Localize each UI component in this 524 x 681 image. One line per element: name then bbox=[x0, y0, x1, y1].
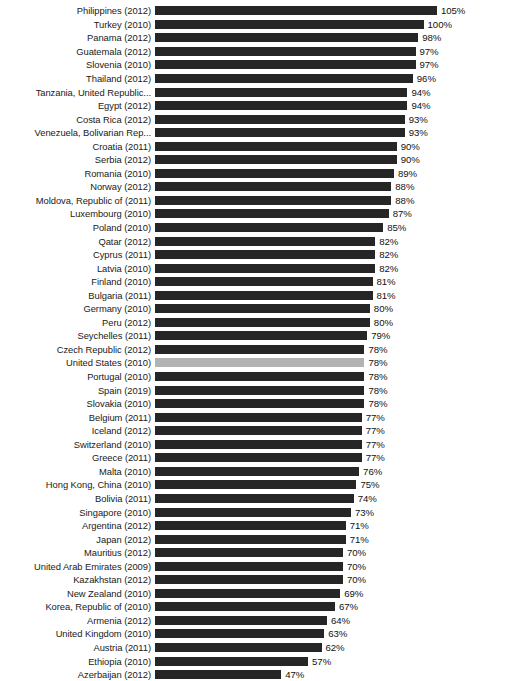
bar-row: Costa Rica (2012)93% bbox=[0, 112, 524, 126]
bar-track: 98% bbox=[155, 31, 524, 45]
bar-track: 105% bbox=[155, 4, 524, 18]
bar-row: Malta (2010)76% bbox=[0, 465, 524, 479]
category-label: Norway (2012) bbox=[0, 181, 155, 192]
value-label: 88% bbox=[391, 195, 414, 206]
category-label: Philippines (2012) bbox=[0, 5, 155, 16]
bar bbox=[155, 616, 327, 625]
bar-row: Latvia (2010)82% bbox=[0, 261, 524, 275]
bar-row: Azerbaijan (2012)47% bbox=[0, 668, 524, 681]
category-label: Romania (2010) bbox=[0, 168, 155, 179]
bar-track: 70% bbox=[155, 559, 524, 573]
category-label: Poland (2010) bbox=[0, 222, 155, 233]
category-label: Kazakhstan (2012) bbox=[0, 574, 155, 585]
bar-track: 79% bbox=[155, 329, 524, 343]
value-label: 90% bbox=[397, 154, 420, 165]
category-label: Moldova, Republic of (2011) bbox=[0, 195, 155, 206]
value-label: 105% bbox=[437, 5, 465, 16]
bar-track: 94% bbox=[155, 85, 524, 99]
bar-row: Thailand (2012)96% bbox=[0, 72, 524, 86]
category-label: Seychelles (2011) bbox=[0, 330, 155, 341]
bar-track: 63% bbox=[155, 627, 524, 641]
bar bbox=[155, 535, 346, 544]
bar-track: 82% bbox=[155, 261, 524, 275]
category-label: New Zealand (2010) bbox=[0, 588, 155, 599]
value-label: 70% bbox=[343, 547, 366, 558]
bar bbox=[155, 548, 343, 557]
category-label: Panama (2012) bbox=[0, 32, 155, 43]
bar bbox=[155, 345, 364, 354]
bar-track: 77% bbox=[155, 451, 524, 465]
bar-track: 73% bbox=[155, 505, 524, 519]
bar bbox=[155, 182, 391, 191]
bar bbox=[155, 318, 370, 327]
bar-track: 69% bbox=[155, 587, 524, 601]
value-label: 71% bbox=[346, 520, 369, 531]
bar-row: United Kingdom (2010)63% bbox=[0, 627, 524, 641]
bar-highlighted bbox=[155, 358, 364, 367]
bar bbox=[155, 508, 351, 517]
bar bbox=[155, 467, 359, 476]
category-label: Qatar (2012) bbox=[0, 236, 155, 247]
bar bbox=[155, 115, 405, 124]
bar bbox=[155, 20, 424, 29]
bar-track: 81% bbox=[155, 288, 524, 302]
value-label: 97% bbox=[416, 59, 439, 70]
bar-track: 100% bbox=[155, 18, 524, 32]
bar-track: 78% bbox=[155, 370, 524, 384]
bar-track: 71% bbox=[155, 519, 524, 533]
category-label: Latvia (2010) bbox=[0, 263, 155, 274]
value-label: 96% bbox=[413, 73, 436, 84]
bar-row: Czech Republic (2012)78% bbox=[0, 343, 524, 357]
bar-track: 78% bbox=[155, 383, 524, 397]
value-label: 75% bbox=[356, 479, 379, 490]
bar-row: Belgium (2011)77% bbox=[0, 410, 524, 424]
category-label: Singapore (2010) bbox=[0, 507, 155, 518]
category-label: Ethiopia (2010) bbox=[0, 656, 155, 667]
bar-track: 70% bbox=[155, 573, 524, 587]
category-label: Czech Republic (2012) bbox=[0, 344, 155, 355]
bar bbox=[155, 643, 322, 652]
value-label: 70% bbox=[343, 561, 366, 572]
bar-track: 87% bbox=[155, 207, 524, 221]
bar-row: Finland (2010)81% bbox=[0, 275, 524, 289]
bar bbox=[155, 453, 362, 462]
category-label: Bulgaria (2011) bbox=[0, 290, 155, 301]
value-label: 57% bbox=[308, 656, 331, 667]
category-label: Thailand (2012) bbox=[0, 73, 155, 84]
value-label: 74% bbox=[354, 493, 377, 504]
bar bbox=[155, 47, 416, 56]
value-label: 85% bbox=[383, 222, 406, 233]
bar-row: Kazakhstan (2012)70% bbox=[0, 573, 524, 587]
bar-track: 76% bbox=[155, 465, 524, 479]
value-label: 47% bbox=[281, 669, 304, 680]
bar-row: Seychelles (2011)79% bbox=[0, 329, 524, 343]
bar bbox=[155, 101, 407, 110]
value-label: 82% bbox=[375, 249, 398, 260]
bar-track: 77% bbox=[155, 438, 524, 452]
bar-row: Greece (2011)77% bbox=[0, 451, 524, 465]
bar-row: Turkey (2010)100% bbox=[0, 18, 524, 32]
bar bbox=[155, 128, 405, 137]
value-label: 78% bbox=[364, 344, 387, 355]
bar-track: 75% bbox=[155, 478, 524, 492]
category-label: Egypt (2012) bbox=[0, 100, 155, 111]
bar-track: 57% bbox=[155, 654, 524, 668]
bar-row: Serbia (2012)90% bbox=[0, 153, 524, 167]
value-label: 82% bbox=[375, 236, 398, 247]
bar bbox=[155, 629, 324, 638]
category-label: Korea, Republic of (2010) bbox=[0, 601, 155, 612]
value-label: 87% bbox=[389, 208, 412, 219]
category-label: Argentina (2012) bbox=[0, 520, 155, 531]
value-label: 77% bbox=[362, 452, 385, 463]
category-label: Switzerland (2010) bbox=[0, 439, 155, 450]
value-label: 97% bbox=[416, 46, 439, 57]
category-label: Belgium (2011) bbox=[0, 412, 155, 423]
category-label: Serbia (2012) bbox=[0, 154, 155, 165]
category-label: Finland (2010) bbox=[0, 276, 155, 287]
bar-row: Poland (2010)85% bbox=[0, 221, 524, 235]
bar-row: Armenia (2012)64% bbox=[0, 614, 524, 628]
bar-track: 88% bbox=[155, 180, 524, 194]
bar-track: 90% bbox=[155, 139, 524, 153]
category-label: Greece (2011) bbox=[0, 452, 155, 463]
bar bbox=[155, 575, 343, 584]
